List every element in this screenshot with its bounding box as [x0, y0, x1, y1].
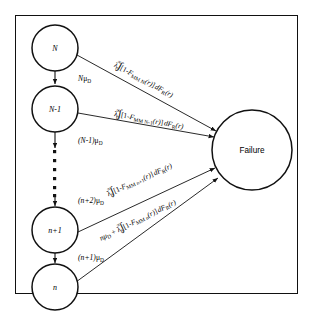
rate-label-nplus1-mu-D: (n+1)μD	[61, 253, 117, 264]
svg-text:(N-1)μD: (N-1)μD	[61, 136, 116, 147]
rate-sub: D	[87, 78, 91, 84]
rate-main: (N-1)	[78, 136, 95, 145]
ellipsis-dot	[53, 159, 56, 162]
node-n-label: n	[53, 283, 57, 292]
diagram-canvas: N N-1 n+1 n Failure NμD (N-1)μD (n+2)μD	[0, 0, 315, 316]
node-n-plus-1-label: n+1	[48, 226, 61, 235]
ellipsis-dot	[53, 186, 56, 189]
rate-label-Nminus1-mu-D: (N-1)μD	[61, 136, 116, 147]
rate-sub: D	[99, 140, 103, 146]
node-N-label: N	[51, 44, 58, 53]
rate-label-N-mu-D: NμD	[61, 74, 104, 85]
diagram-svg: N N-1 n+1 n Failure NμD (N-1)μD (n+2)μD	[0, 0, 315, 316]
svg-text:(n+1)μD: (n+1)μD	[61, 253, 117, 264]
node-failure-label: Failure	[239, 146, 264, 155]
rate-main: (n+1)	[78, 253, 96, 262]
ellipsis-dot	[53, 168, 56, 171]
fn-sub: MM n+1	[125, 177, 145, 190]
ellipsis-dot	[53, 194, 56, 197]
rate-sub: D	[100, 257, 104, 263]
svg-text:NμD: NμD	[61, 74, 104, 85]
ellipsis-dot	[53, 177, 56, 180]
edge-label-N-to-failure: λ∫0∞[1-FMM N(r)]dFR(r)	[97, 49, 187, 107]
svg-text:λ∫0∞[1-FMM N(r)]dFR(r): λ∫0∞[1-FMM N(r)]dFR(r)	[97, 49, 187, 107]
measure-arg: (r)	[175, 121, 185, 131]
ellipsis-dot	[53, 150, 56, 153]
node-N-minus-1-label: N-1	[48, 105, 61, 114]
